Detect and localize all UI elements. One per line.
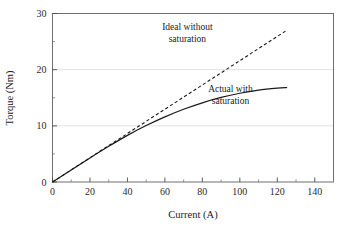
x-tick-label-120: 120 [270, 186, 285, 197]
y-tick-label-20: 20 [37, 64, 47, 75]
x-tick-label-100: 100 [232, 186, 247, 197]
torque-current-chart: 020406080100120140 0102030 Ideal without… [0, 0, 349, 227]
chart-svg: 020406080100120140 0102030 Ideal without… [0, 0, 349, 227]
y-tick-label-30: 30 [37, 8, 47, 19]
x-tick-label-140: 140 [307, 186, 322, 197]
y-tick-label-10: 10 [37, 120, 47, 131]
x-tick-label-40: 40 [122, 186, 132, 197]
x-tick-label-0: 0 [50, 186, 55, 197]
x-axis-title: Current (A) [168, 209, 218, 221]
y-tick-label-0: 0 [42, 177, 47, 188]
x-tick-label-20: 20 [85, 186, 95, 197]
ideal-annotation: Ideal withoutsaturation [162, 22, 213, 43]
x-tick-label-80: 80 [197, 186, 207, 197]
x-tick-label-60: 60 [160, 186, 170, 197]
actual-annotation: Actual withsaturation [208, 84, 253, 106]
y-axis-title: Torque (Nm) [4, 70, 16, 125]
